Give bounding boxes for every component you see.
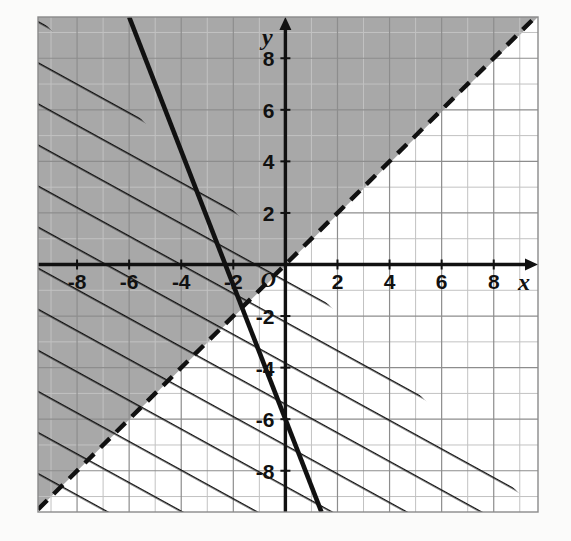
y-tick-label: -2	[256, 305, 275, 328]
origin-label: O	[261, 268, 276, 292]
y-tick-label: -6	[256, 408, 275, 431]
x-tick-label: -2	[224, 270, 243, 293]
y-tick-label: -4	[256, 357, 275, 380]
coordinate-plane-svg: -8-6-4-224688642-2-4-6-8 x y O	[0, 0, 571, 541]
y-tick-label: 8	[263, 47, 275, 70]
x-tick-label: 8	[488, 270, 500, 293]
x-axis-label: x	[517, 269, 530, 295]
y-axis-label: y	[259, 24, 273, 50]
y-tick-label: -8	[256, 460, 275, 483]
y-tick-label: 4	[263, 150, 275, 173]
gray-shaded-region	[38, 0, 538, 17]
x-tick-label: 2	[332, 270, 344, 293]
y-tick-label: 6	[263, 99, 275, 122]
y-tick-label: 2	[263, 202, 275, 225]
x-tick-label: 6	[436, 270, 448, 293]
x-tick-label: -4	[172, 270, 191, 293]
x-tick-label: -6	[120, 270, 139, 293]
x-tick-label: 4	[384, 270, 396, 293]
graph-figure: -8-6-4-224688642-2-4-6-8 x y O	[0, 0, 571, 541]
x-tick-label: -8	[68, 270, 87, 293]
